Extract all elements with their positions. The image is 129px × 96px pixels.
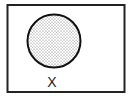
set-x-circle [28,15,81,68]
set-x-label: X [47,74,57,90]
venn-diagram: X [0,0,129,96]
